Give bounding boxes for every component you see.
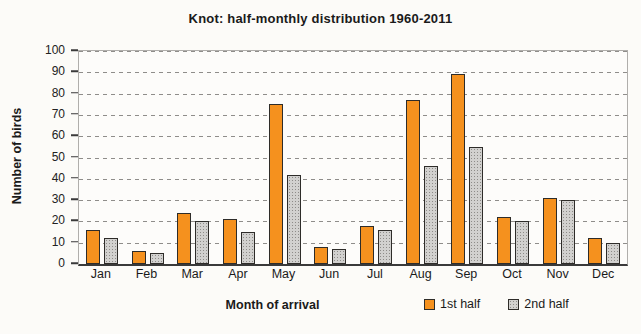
legend-label-1st-half: 1st half xyxy=(440,297,480,311)
bar-group-feb xyxy=(125,51,171,264)
x-axis-label-aug: Aug xyxy=(398,267,444,281)
bar-group-nov xyxy=(536,51,582,264)
y-axis-tick-mark-50 xyxy=(71,156,78,158)
bar-group-aug xyxy=(399,51,445,264)
y-axis-tick-label-90: 90 xyxy=(52,64,65,78)
bar-mar-1st-half xyxy=(177,213,191,264)
bar-apr-2nd-half xyxy=(241,232,255,264)
legend-item-2nd-half: 2nd half xyxy=(508,297,568,311)
y-axis-tick-label-10: 10 xyxy=(52,235,65,249)
bar-jun-1st-half xyxy=(314,247,328,264)
bar-sep-1st-half xyxy=(451,74,465,264)
bar-jul-1st-half xyxy=(360,226,374,264)
bar-group-may xyxy=(262,51,308,264)
y-axis-tick-mark-100 xyxy=(71,49,78,51)
x-axis-label-sep: Sep xyxy=(443,267,489,281)
y-axis: 0102030405060708090100 xyxy=(0,50,77,263)
y-axis-tick-label-20: 20 xyxy=(52,213,65,227)
y-axis-tick-mark-60 xyxy=(71,134,78,136)
bar-feb-1st-half xyxy=(132,251,146,264)
bar-feb-2nd-half xyxy=(150,253,164,264)
bar-oct-2nd-half xyxy=(515,221,529,264)
legend-swatch-2nd-half xyxy=(508,299,519,310)
y-axis-tick-label-50: 50 xyxy=(52,150,65,164)
y-axis-tick-label-0: 0 xyxy=(58,256,65,270)
bar-jun-2nd-half xyxy=(332,249,346,264)
bar-sep-2nd-half xyxy=(469,147,483,264)
y-axis-tick-mark-30 xyxy=(71,198,78,200)
x-axis-label-dec: Dec xyxy=(580,267,626,281)
bar-nov-1st-half xyxy=(543,198,557,264)
x-axis-title: Month of arrival xyxy=(200,298,345,312)
y-axis-tick-label-70: 70 xyxy=(52,107,65,121)
bar-dec-1st-half xyxy=(588,238,602,264)
x-axis-label-mar: Mar xyxy=(169,267,215,281)
x-axis-label-jan: Jan xyxy=(78,267,124,281)
bar-group-jan xyxy=(79,51,125,264)
bar-group-dec xyxy=(581,51,627,264)
bar-group-oct xyxy=(490,51,536,264)
bar-oct-1st-half xyxy=(497,217,511,264)
y-axis-tick-label-30: 30 xyxy=(52,192,65,206)
plot-area xyxy=(78,50,628,266)
x-axis: JanFebMarAprMayJunJulAugSepOctNovDec xyxy=(78,267,626,281)
x-axis-label-may: May xyxy=(261,267,307,281)
bar-dec-2nd-half xyxy=(606,243,620,264)
bar-apr-1st-half xyxy=(223,219,237,264)
bar-jan-1st-half xyxy=(86,230,100,264)
legend: 1st half2nd half xyxy=(424,297,569,311)
x-axis-label-jun: Jun xyxy=(306,267,352,281)
bar-aug-2nd-half xyxy=(424,166,438,264)
x-axis-label-jul: Jul xyxy=(352,267,398,281)
y-axis-tick-label-80: 80 xyxy=(52,86,65,100)
bar-group-jul xyxy=(353,51,399,264)
y-axis-tick-mark-10 xyxy=(71,241,78,243)
x-axis-label-feb: Feb xyxy=(124,267,170,281)
legend-swatch-1st-half xyxy=(424,299,435,310)
y-axis-tick-label-100: 100 xyxy=(45,43,65,57)
y-axis-tick-mark-80 xyxy=(71,92,78,94)
y-axis-tick-mark-40 xyxy=(71,177,78,179)
bar-group-apr xyxy=(216,51,262,264)
x-axis-label-nov: Nov xyxy=(535,267,581,281)
y-axis-tick-mark-0 xyxy=(71,262,78,264)
legend-item-1st-half: 1st half xyxy=(424,297,480,311)
x-axis-label-apr: Apr xyxy=(215,267,261,281)
legend-label-2nd-half: 2nd half xyxy=(524,297,568,311)
bar-group-sep xyxy=(444,51,490,264)
bar-group-mar xyxy=(170,51,216,264)
bar-jul-2nd-half xyxy=(378,230,392,264)
bar-mar-2nd-half xyxy=(195,221,209,264)
bar-may-1st-half xyxy=(269,104,283,264)
bar-group-jun xyxy=(307,51,353,264)
y-axis-tick-mark-90 xyxy=(71,71,78,73)
bar-may-2nd-half xyxy=(287,175,301,264)
bar-jan-2nd-half xyxy=(104,238,118,264)
chart-title: Knot: half-monthly distribution 1960-201… xyxy=(0,11,641,26)
y-axis-tick-label-60: 60 xyxy=(52,128,65,142)
chart-figure: Knot: half-monthly distribution 1960-201… xyxy=(0,0,641,334)
x-axis-label-oct: Oct xyxy=(489,267,535,281)
y-axis-tick-mark-20 xyxy=(71,220,78,222)
y-axis-tick-mark-70 xyxy=(71,113,78,115)
bar-nov-2nd-half xyxy=(561,200,575,264)
bar-aug-1st-half xyxy=(406,100,420,264)
y-axis-tick-label-40: 40 xyxy=(52,171,65,185)
